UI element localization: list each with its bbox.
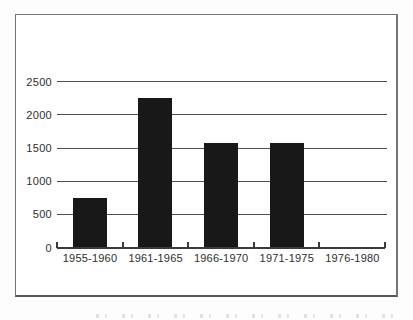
cropped-caption-fragment — [96, 314, 396, 318]
chart-frame — [15, 14, 398, 297]
scanned-page: 050010001500200025001955-19601961-196519… — [0, 0, 413, 320]
